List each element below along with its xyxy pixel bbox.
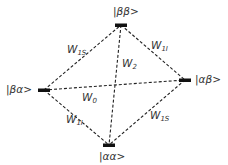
energy-level-bar-bb — [115, 24, 127, 28]
transition-rate-label: W1S — [150, 110, 169, 123]
state-label-aa: |αα> — [99, 151, 125, 162]
state-label-bb: |ββ> — [113, 6, 139, 17]
transition-diagram: W1SW1IW2W0W1IW1S|ββ>|βα>|αβ>|αα> — [0, 0, 228, 165]
rate-symbol: W — [122, 57, 132, 69]
energy-level-bar-ab — [179, 79, 191, 83]
state-label-ba: |βα> — [6, 84, 32, 95]
rate-symbol: W — [150, 109, 160, 121]
rate-subscript: 1S — [77, 49, 86, 57]
rate-subscript: 1I — [76, 119, 83, 127]
rate-subscript: 0 — [92, 97, 96, 105]
transition-rate-label: W1I — [151, 40, 168, 53]
rate-subscript: 2 — [132, 63, 136, 71]
state-label-ab: |αβ> — [195, 74, 221, 85]
transition-line-ab-aa — [109, 80, 185, 145]
rate-subscript: 1I — [161, 45, 168, 53]
rate-symbol: W — [82, 91, 92, 103]
transition-line-ba-bb — [44, 25, 121, 90]
rate-symbol: W — [67, 43, 77, 55]
rate-symbol: W — [151, 39, 161, 51]
energy-level-bar-aa — [103, 144, 115, 148]
energy-level-bar-ba — [38, 89, 50, 93]
transition-line-ba-ab — [44, 80, 185, 90]
transition-rate-label: W2 — [122, 58, 137, 71]
diagram-canvas — [0, 0, 228, 165]
rate-subscript: 1S — [160, 115, 169, 123]
transition-rate-label: W1S — [67, 44, 86, 57]
transition-rate-label: W0 — [82, 92, 97, 105]
rate-symbol: W — [66, 113, 76, 125]
transition-rate-label: W1I — [66, 114, 83, 127]
